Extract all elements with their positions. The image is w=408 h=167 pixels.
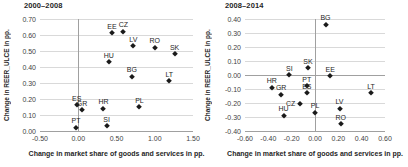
point-label-hu: HU [104,52,114,59]
y-tick-label: -0.30 [219,114,241,121]
point-hr [100,105,106,111]
y-tick-label: -0.40 [219,128,241,135]
point-label-lt: LT [367,83,375,90]
point-label-lv: LV [335,98,343,105]
point-label-bg: BG [127,66,137,73]
point-label-pl: PL [135,97,144,104]
point-label-gr: GR [276,84,287,91]
point-label-pt: PT [71,117,80,124]
y-tick-label: 0.10 [219,58,241,65]
y-tick-label: 0.30 [219,30,241,37]
point-label-lv: LV [129,36,137,43]
point-label-hr: HR [267,77,277,84]
point-si [286,72,292,78]
gridline [40,99,193,100]
y-tick-label: -0.10 [219,86,241,93]
point-hu [280,112,286,118]
point-sk [172,51,178,57]
point-label-ee: EE [107,23,116,30]
gridline [40,35,193,36]
y-tick-label: 0.20 [14,96,36,103]
x-tick-label: 0.50 [102,135,132,142]
y-tick-label: 0.40 [14,64,36,71]
point-label-ro: RO [150,37,161,44]
y-tick-label: 0.30 [14,80,36,87]
x-tick-label: 0.00 [63,135,93,142]
y-tick-label: 0.00 [14,128,36,135]
point-label-ee: EE [325,66,334,73]
point-label-gr: GR [77,100,88,107]
point-label-hr: HR [98,98,108,105]
y-tick-label: -0.20 [219,100,241,107]
y-tick-label: 0.10 [14,112,36,119]
point-ee [109,30,115,36]
point-label-bg: BG [320,14,330,21]
point-lt [166,78,172,84]
y-tick-label: 0.40 [219,16,241,23]
point-ro [338,121,344,127]
plot-area: 0.000.100.200.300.400.500.600.70-0.500.0… [0,0,200,167]
point-label-pt: PT [302,76,311,83]
point-bg [129,73,135,79]
point-gr [278,91,284,97]
point-label-si: SI [286,65,293,72]
point-label-si: SI [103,116,110,123]
point-cz [297,101,303,107]
plot-area: -0.40-0.30-0.20-0.100.000.100.200.300.40… [201,0,401,167]
gridline [40,131,193,132]
gridline [40,67,193,68]
point-label-cz: CZ [119,21,128,28]
point-label-ro: RO [335,114,346,121]
point-label-hu: HU [278,105,288,112]
gridline [40,115,193,116]
point-label-lt: LT [165,71,173,78]
point-es [304,90,310,96]
point-label-es: ES [302,83,311,90]
y-tick-label: 0.60 [14,32,36,39]
point-pl [312,110,318,116]
point-pl [136,104,142,110]
x-tick-label: 1.00 [140,135,170,142]
point-si [103,123,109,129]
y-tick-label: 0.20 [219,44,241,51]
point-label-sk: SK [170,44,179,51]
chart-2008-2014: 2008–2014 Change in REER_ULCE in pp. -0.… [201,0,401,167]
point-sk [305,65,311,71]
x-tick-label: -0.50 [25,135,55,142]
x-axis-title: Change in market share of goods and serv… [220,150,408,157]
point-bg [322,21,328,27]
chart-2000-2008: 2000–2008 Change in REER_ULCE in pp. 0.0… [0,0,200,167]
point-label-pl: PL [311,102,320,109]
point-hu [106,59,112,65]
y-tick-label: 0.50 [14,48,36,55]
point-hr [269,84,275,90]
point-lv [130,43,136,49]
point-label-sk: SK [303,58,312,65]
point-gr [79,107,85,113]
y-tick-label: 0.00 [219,72,241,79]
point-lv [336,105,342,111]
point-lt [368,90,374,96]
gridline [40,19,193,20]
zero-vertical-line [78,19,79,131]
y-tick-label: 0.70 [14,16,36,23]
x-tick-label: 0.60 [370,135,400,142]
x-axis-title: Change in market share of goods and serv… [22,150,212,157]
